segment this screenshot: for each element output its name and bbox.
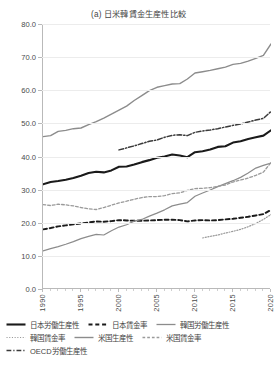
x-tick-mark bbox=[194, 289, 195, 292]
y-gridline bbox=[42, 256, 270, 257]
legend-label: 日本賃金率 bbox=[112, 319, 147, 330]
x-tick-label: 1990 bbox=[38, 294, 47, 312]
y-tick-label: 40.0 bbox=[0, 152, 36, 161]
legend-item[interactable]: 韓国労働生産性 bbox=[156, 318, 229, 331]
x-tick-mark-minor bbox=[164, 289, 165, 291]
x-tick-mark-minor bbox=[57, 289, 58, 291]
x-tick-label: 2020 bbox=[266, 294, 275, 312]
y-tick-mark bbox=[38, 256, 42, 257]
x-tick-mark-minor bbox=[171, 289, 172, 291]
y-gridline bbox=[42, 223, 270, 224]
y-tick-label: 30.0 bbox=[0, 185, 36, 194]
legend-item[interactable]: 日本労働生産性 bbox=[6, 318, 79, 331]
x-tick-label: 2010 bbox=[190, 294, 199, 312]
x-tick-mark-minor bbox=[217, 289, 218, 291]
chart-title: (a) 日米韓賃金生産性比較 bbox=[0, 7, 277, 19]
x-tick-mark bbox=[42, 289, 43, 292]
x-tick-mark-minor bbox=[209, 289, 210, 291]
x-tick-label: 2005 bbox=[152, 294, 161, 312]
legend-swatch-icon bbox=[88, 320, 108, 329]
legend-label: OECD労働生産性 bbox=[30, 345, 87, 356]
x-tick-label: 1995 bbox=[76, 294, 85, 312]
x-tick-mark bbox=[270, 289, 271, 292]
x-tick-mark bbox=[118, 289, 119, 292]
x-tick-mark-minor bbox=[72, 289, 73, 291]
x-tick-mark-minor bbox=[95, 289, 96, 291]
y-gridline bbox=[42, 57, 270, 58]
series-line bbox=[119, 111, 271, 149]
y-tick-label: 60.0 bbox=[0, 86, 36, 95]
legend-item[interactable]: 米国賃金率 bbox=[142, 331, 201, 344]
x-tick-mark-minor bbox=[148, 289, 149, 291]
legend-label: 日本労働生産性 bbox=[30, 319, 79, 330]
y-gridline bbox=[42, 90, 270, 91]
y-tick-label: 20.0 bbox=[0, 218, 36, 227]
x-tick-mark-minor bbox=[50, 289, 51, 291]
y-gridline bbox=[42, 24, 270, 25]
x-tick-mark-minor bbox=[103, 289, 104, 291]
x-tick-mark-minor bbox=[224, 289, 225, 291]
legend-label: 米国生産性 bbox=[98, 332, 133, 343]
x-tick-mark bbox=[156, 289, 157, 292]
y-tick-mark bbox=[38, 123, 42, 124]
legend-swatch-icon bbox=[156, 320, 176, 329]
x-tick-mark bbox=[232, 289, 233, 292]
legend-label: 韓国労働生産性 bbox=[180, 319, 229, 330]
y-tick-mark bbox=[38, 223, 42, 224]
legend-swatch-icon bbox=[74, 333, 94, 342]
y-gridline bbox=[42, 157, 270, 158]
x-tick-mark-minor bbox=[133, 289, 134, 291]
y-gridline bbox=[42, 123, 270, 124]
y-tick-mark bbox=[38, 24, 42, 25]
y-tick-label: 10.0 bbox=[0, 251, 36, 260]
x-tick-mark-minor bbox=[202, 289, 203, 291]
x-tick-mark-minor bbox=[255, 289, 256, 291]
legend-swatch-icon bbox=[6, 333, 26, 342]
legend-item[interactable]: 韓国賃金率 bbox=[6, 331, 65, 344]
x-tick-mark-minor bbox=[179, 289, 180, 291]
y-tick-mark bbox=[38, 190, 42, 191]
y-tick-label: 70.0 bbox=[0, 53, 36, 62]
y-tick-mark bbox=[38, 157, 42, 158]
chart-figure: (a) 日米韓賃金生産性比較 日本労働生産性日本賃金率韓国労働生産性韓国賃金率米… bbox=[0, 0, 277, 365]
x-tick-label: 2000 bbox=[114, 294, 123, 312]
y-tick-mark bbox=[38, 57, 42, 58]
chart-legend: 日本労働生産性日本賃金率韓国労働生産性韓国賃金率米国生産性米国賃金率OECD労働… bbox=[6, 318, 274, 357]
x-tick-mark-minor bbox=[247, 289, 248, 291]
x-tick-mark-minor bbox=[141, 289, 142, 291]
y-tick-mark bbox=[38, 90, 42, 91]
y-tick-label: 50.0 bbox=[0, 119, 36, 128]
x-tick-mark bbox=[80, 289, 81, 292]
x-tick-mark-minor bbox=[126, 289, 127, 291]
legend-label: 韓国賃金率 bbox=[30, 332, 65, 343]
series-line bbox=[43, 162, 271, 209]
x-tick-mark-minor bbox=[262, 289, 263, 291]
legend-item[interactable]: 米国生産性 bbox=[74, 331, 133, 344]
legend-item[interactable]: OECD労働生産性 bbox=[6, 344, 87, 357]
legend-swatch-icon bbox=[142, 333, 162, 342]
x-tick-mark-minor bbox=[65, 289, 66, 291]
y-tick-label: 0.0 bbox=[0, 285, 36, 294]
x-tick-mark-minor bbox=[186, 289, 187, 291]
legend-item[interactable]: 日本賃金率 bbox=[88, 318, 147, 331]
legend-swatch-icon bbox=[6, 346, 26, 355]
y-gridline bbox=[42, 190, 270, 191]
x-tick-mark-minor bbox=[88, 289, 89, 291]
legend-label: 米国賃金率 bbox=[166, 332, 201, 343]
x-tick-mark-minor bbox=[240, 289, 241, 291]
x-tick-label: 2015 bbox=[228, 294, 237, 312]
legend-swatch-icon bbox=[6, 320, 26, 329]
x-tick-mark-minor bbox=[110, 289, 111, 291]
y-tick-label: 80.0 bbox=[0, 20, 36, 29]
